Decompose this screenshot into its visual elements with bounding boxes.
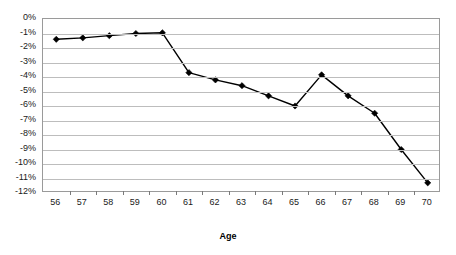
y-axis-tick-label: -11% <box>0 173 36 182</box>
gridline <box>43 164 439 165</box>
y-axis-tick-label: -8% <box>0 129 36 138</box>
y-axis-tick-label: -12% <box>0 187 36 196</box>
x-axis-tick <box>96 191 97 195</box>
gridline <box>43 48 439 49</box>
x-axis-tick <box>176 191 177 195</box>
x-axis-tick-label: 64 <box>253 197 283 207</box>
y-axis-tick-label: 0% <box>0 13 36 22</box>
y-axis-tick-label: -4% <box>0 71 36 80</box>
y-axis-tick-label: -9% <box>0 144 36 153</box>
plot-area <box>42 18 440 192</box>
x-axis-tick <box>149 191 150 195</box>
x-axis-tick <box>388 191 389 195</box>
gridline <box>43 121 439 122</box>
gridline <box>43 63 439 64</box>
x-axis-tick-label: 68 <box>359 197 389 207</box>
x-axis-tick-label: 63 <box>226 197 256 207</box>
x-axis-tick-label: 60 <box>146 197 176 207</box>
gridline <box>43 106 439 107</box>
y-axis-tick-label: -10% <box>0 158 36 167</box>
x-axis-tick <box>70 191 71 195</box>
gridline <box>43 34 439 35</box>
y-axis-tick-label: -1% <box>0 28 36 37</box>
gridline <box>43 77 439 78</box>
x-axis-tick-label: 61 <box>173 197 203 207</box>
y-axis-tick-label: -3% <box>0 57 36 66</box>
x-axis-tick <box>335 191 336 195</box>
gridline <box>43 179 439 180</box>
series-polyline <box>56 33 427 183</box>
x-axis-tick-label: 65 <box>279 197 309 207</box>
x-axis-tick <box>255 191 256 195</box>
x-axis-tick-label: 58 <box>93 197 123 207</box>
data-point-marker <box>53 36 59 42</box>
x-axis-tick-label: 69 <box>385 197 415 207</box>
data-point-marker <box>265 93 271 99</box>
y-axis-tick-label: -2% <box>0 42 36 51</box>
x-axis-title: Age <box>0 231 456 241</box>
x-axis-tick <box>123 191 124 195</box>
gridline <box>43 92 439 93</box>
x-axis-tick-label: 57 <box>67 197 97 207</box>
x-axis-tick-label: 70 <box>412 197 442 207</box>
x-axis-tick-label: 56 <box>40 197 70 207</box>
x-axis-tick-label: 67 <box>332 197 362 207</box>
x-axis-tick <box>282 191 283 195</box>
gridline <box>43 150 439 151</box>
x-axis-tick <box>308 191 309 195</box>
x-axis-tick <box>202 191 203 195</box>
y-axis-tick-label: -6% <box>0 100 36 109</box>
y-axis-tick-label: -7% <box>0 115 36 124</box>
chart-container: 0%-1%-2%-3%-4%-5%-6%-7%-8%-9%-10%-11%-12… <box>0 0 456 255</box>
data-point-marker <box>239 83 245 89</box>
x-axis-tick <box>414 191 415 195</box>
x-axis-tick-label: 62 <box>199 197 229 207</box>
x-axis-tick <box>229 191 230 195</box>
x-axis-tick <box>361 191 362 195</box>
x-axis-tick-label: 66 <box>306 197 336 207</box>
gridline <box>43 135 439 136</box>
data-point-marker <box>80 35 86 41</box>
x-axis-tick-label: 59 <box>120 197 150 207</box>
series-markers <box>53 30 431 186</box>
y-axis-tick-label: -5% <box>0 86 36 95</box>
